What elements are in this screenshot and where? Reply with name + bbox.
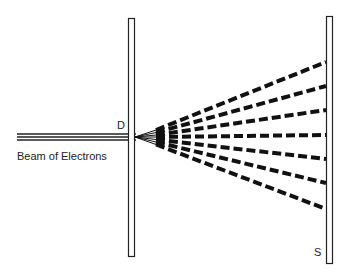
screen-s [327, 17, 333, 264]
diffraction-diagram [0, 0, 356, 275]
electron-beam [17, 134, 136, 140]
diffraction-rays [135, 62, 326, 209]
barrier-label: D [117, 120, 125, 131]
beam-label: Beam of Electrons [17, 151, 107, 162]
barrier-d [129, 19, 135, 257]
screen-label: S [314, 247, 321, 258]
